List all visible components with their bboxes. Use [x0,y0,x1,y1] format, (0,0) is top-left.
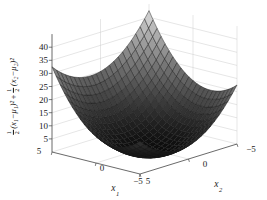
z-tick-label: 5 [44,134,49,143]
x1-axis-label: x1 [111,184,118,194]
plot-line [237,144,238,147]
fraction-denominator: 2 [14,130,21,135]
fraction-numerator: 1 [6,130,14,135]
x2-label-base: x [214,179,218,189]
z-tick-label: 35 [39,56,48,65]
x1-tick-label: 5 [37,147,42,156]
z-tick-label: 15 [39,108,48,117]
plot-line [51,152,52,155]
z-tick-label: 30 [39,69,48,78]
fraction-numerator: 1 [6,88,14,93]
one-half-fraction: 12 [6,130,20,135]
x1-label-base: x [111,183,115,193]
x2-tick-label: −5 [246,145,256,154]
plot-line [95,163,96,166]
x2-tick-label: 0 [203,160,208,169]
z-label-term-1: (x₁−μ₁)² [9,101,18,129]
z-label-plus: + [9,94,18,100]
plot-line [189,159,190,162]
x2-tick-label: 5 [146,177,151,186]
z-axis-label: 12 (x₁−μ₁)² + 12 (x₂−μ₂)² [6,58,20,136]
x2-axis-label: x2 [214,180,221,190]
z-tick-label: 20 [39,95,48,104]
x1-tick-label: −5 [133,177,143,186]
x2-label-subscript: 2 [219,186,222,193]
z-tick-label: 10 [39,121,48,130]
z-tick-label: 40 [39,43,48,52]
surface-plot-figure: 51015202530354050−550−5 12 (x₁−μ₁)² + 12… [0,0,267,200]
x1-label-subscript: 1 [116,190,119,197]
z-label-term-2: (x₂−μ₂)² [9,58,18,86]
one-half-fraction: 12 [6,88,20,93]
x1-tick-label: 0 [100,164,105,173]
fraction-denominator: 2 [14,88,21,93]
z-tick-label: 25 [39,82,48,91]
